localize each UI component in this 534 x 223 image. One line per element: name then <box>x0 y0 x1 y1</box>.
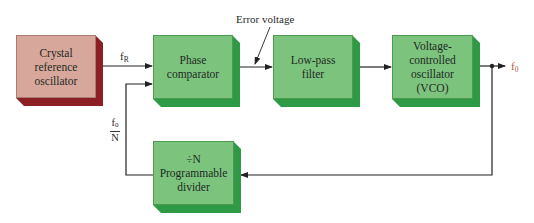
block-text: Crystal <box>35 46 78 60</box>
phase-comparator-block: Phase comparator <box>153 35 241 108</box>
fr-label: fR <box>120 50 129 66</box>
connection-wires <box>0 0 534 223</box>
error-voltage-pointer <box>255 27 270 64</box>
programmable-divider-block: ÷N Programmable divider <box>153 141 242 214</box>
block-text: oscillator <box>35 74 78 88</box>
block-text: oscillator <box>409 67 456 81</box>
f0-over-n-label: f0 N <box>110 118 120 143</box>
block-text: (VCO) <box>409 81 456 95</box>
block-text: controlled <box>409 53 456 67</box>
pll-block-diagram: Crystal reference oscillator Phase compa… <box>0 0 534 223</box>
block-text: Voltage- <box>409 39 456 53</box>
block-text: Programmable <box>160 166 228 180</box>
error-voltage-label: Error voltage <box>236 13 294 25</box>
wire-divider-to-comparator <box>126 84 153 175</box>
block-text: reference <box>35 60 78 74</box>
block-text: Phase <box>167 53 219 67</box>
block-face: ÷N Programmable divider <box>153 141 234 205</box>
crystal-reference-oscillator-block: Crystal reference oscillator <box>16 35 104 107</box>
block-text: filter <box>291 67 336 81</box>
low-pass-filter-block: Low-pass filter <box>273 35 361 108</box>
block-face: Phase comparator <box>153 35 233 99</box>
block-text: comparator <box>167 67 219 81</box>
block-text: Low-pass <box>291 53 336 67</box>
block-face: Crystal reference oscillator <box>16 35 96 98</box>
block-face: Low-pass filter <box>273 35 353 99</box>
block-face: Voltage- controlled oscillator (VCO) <box>392 35 473 99</box>
f0-output-label: f0 <box>511 60 518 76</box>
vco-block: Voltage- controlled oscillator (VCO) <box>392 35 481 108</box>
block-text: ÷N <box>160 152 228 166</box>
block-text: divider <box>160 180 228 194</box>
